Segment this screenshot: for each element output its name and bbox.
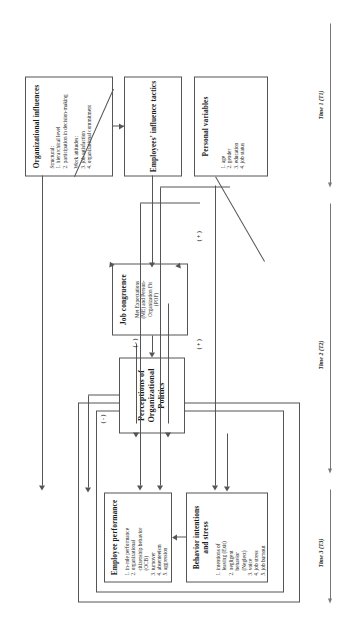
list-item: (POF): [153, 269, 159, 329]
connector-perceptions-perf-vert: [88, 394, 120, 395]
arrowhead-to-behavior: [224, 486, 230, 491]
sign-negative-congruence: ( - ): [132, 338, 138, 347]
rail-personal-horiz-top: [160, 187, 161, 485]
time-axis-line-t3: [330, 489, 331, 599]
arrowhead-to-performance: [172, 534, 177, 540]
diagram-canvas: Employee performance 1. in-role performa…: [0, 0, 352, 619]
box-employee-performance[interactable]: Employee performance 1. in-role performa…: [104, 492, 172, 582]
time-axis-arrow-t1: [328, 182, 332, 187]
rail-orginfl-horiz-b: [215, 185, 216, 485]
arrowhead-perceptions-to-perf: [85, 487, 91, 492]
box-employees-influence-tactics[interactable]: Employees' influence tactics: [124, 76, 182, 176]
box-title-employee-performance: Employee performance: [110, 499, 119, 575]
connector-orginfl-to-perceptions: [136, 343, 137, 423]
box-items-organizational-influences: Structural: 1. hierarchical level 2. par…: [49, 84, 92, 168]
list-item: 5. aggression: [162, 499, 168, 575]
arrowhead-tactics-to-perceptions: [165, 432, 171, 437]
connector-behavior-to-performance: [177, 536, 186, 537]
time-axis-arrow-t3: [328, 598, 332, 603]
sign-positive-bottom: ( + ): [196, 231, 202, 241]
box-job-congruence[interactable]: Job congruence Met Expectations (ME) and…: [112, 263, 188, 335]
time-axis-line-t2: [330, 203, 331, 469]
box-items-behavior-intentions: 1. intentions of leaving (Exit) 2. negli…: [215, 499, 266, 575]
box-personal-variables[interactable]: Personal variables 1. age 2. gender 3. e…: [194, 76, 268, 176]
connector-congruence-to-perceptions: [152, 335, 153, 352]
arrowhead-congruence-to-perceptions: [149, 352, 155, 357]
arrowhead-rail-personal-2: [137, 485, 143, 490]
box-title-job-congruence: Job congruence: [119, 269, 128, 329]
connector-tactics-to-congruence: [152, 175, 153, 263]
rail-personal-horiz-2: [140, 203, 141, 485]
time-label-t2: Time 2 (T2): [318, 340, 324, 369]
box-title-influence-tactics: Employees' influence tactics: [149, 80, 158, 171]
time-label-t1: Time 1 (T1): [318, 90, 324, 119]
arrowhead-tactics-to-congruence: [149, 262, 155, 267]
sign-negative-top: ( - ): [100, 414, 106, 423]
box-items-job-congruence: Met Expectations (ME) and Person- Organi…: [134, 269, 160, 329]
arrowhead-orginfl-to-perceptions: [133, 432, 139, 437]
box-items-employee-performance: 1. in-role performance 2. organizational…: [124, 499, 169, 575]
list-item: 2. participation in decision-making: [62, 84, 68, 168]
rail-orginfl-horiz-a: [42, 175, 43, 485]
arrowhead-rail-b: [212, 485, 218, 490]
box-organizational-influences[interactable]: Organizational influences Structural: 1.…: [25, 76, 113, 176]
arrowhead-rail-personal-top: [157, 485, 163, 490]
connector-perceptions-perf-horiz: [88, 395, 89, 487]
box-behavior-intentions-stress[interactable]: Behavior intentions and stress 1. intent…: [186, 492, 268, 582]
figure-page: Employee performance 1. in-role performa…: [0, 0, 352, 619]
box-perceptions-organizational-politics[interactable]: Perceptions of Organizational Politics: [119, 357, 185, 433]
sign-positive-mid: ( + ): [196, 339, 202, 349]
list-item: 4. organizational commitment: [86, 84, 92, 168]
box-items-personal-variables: 1. age 2. gender 3. education 4. job sta…: [220, 84, 246, 168]
connector-personal-to-congruence: [215, 176, 265, 261]
arrowhead-stub-tactics: [119, 123, 124, 129]
connector-tactics-to-perceptions: [168, 303, 169, 423]
box-title-perceptions: Perceptions of Organizational Politics: [137, 362, 167, 428]
arrowhead-rail-a: [39, 485, 45, 490]
box-title-behavior-intentions: Behavior intentions and stress: [192, 499, 210, 575]
connector-perceptions-to-behavior: [227, 433, 228, 486]
list-item: 4. job status: [239, 84, 245, 168]
box-title-personal-variables: Personal variables: [201, 84, 210, 168]
list-item: 5. job burnout: [260, 499, 266, 575]
time-axis-line-t1: [330, 23, 331, 183]
time-label-t3: Time 3 (T3): [318, 538, 324, 567]
box-title-organizational-influences: Organizational influences: [32, 84, 41, 168]
time-axis-arrow-t2: [328, 468, 332, 473]
rail-personal-vert-2: [140, 202, 200, 203]
